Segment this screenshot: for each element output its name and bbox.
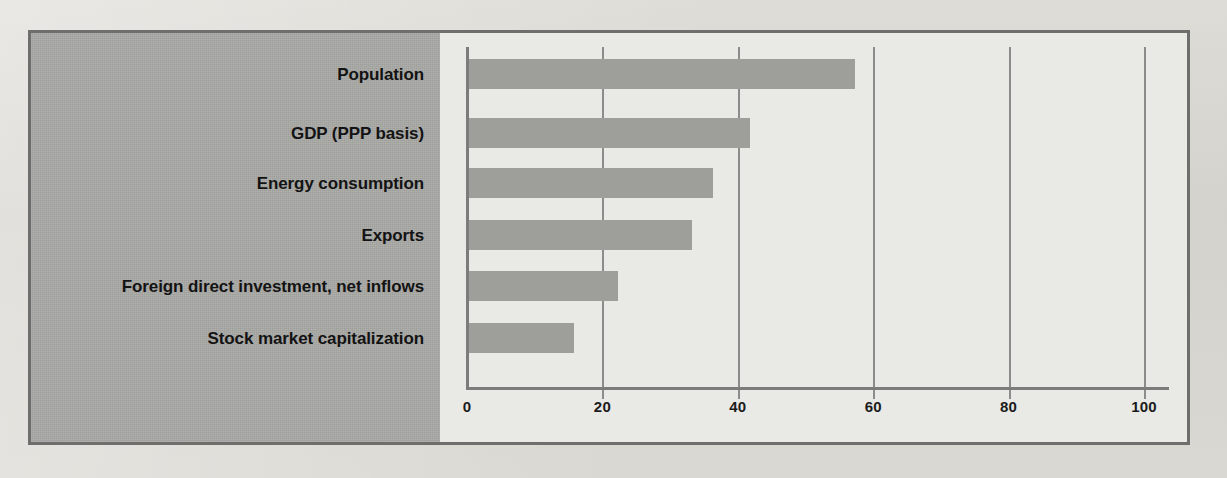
gridline-60 bbox=[873, 47, 875, 399]
x-tick-label-80: 80 bbox=[1000, 398, 1017, 415]
category-label-3: Exports bbox=[361, 226, 424, 246]
category-label-4: Foreign direct investment, net inflows bbox=[122, 277, 424, 297]
bar-0 bbox=[469, 59, 855, 89]
x-tick-label-0: 0 bbox=[463, 398, 472, 415]
x-tick-label-60: 60 bbox=[865, 398, 882, 415]
bar-2 bbox=[469, 168, 713, 198]
gridline-80 bbox=[1009, 47, 1011, 399]
bar-4 bbox=[469, 271, 618, 301]
plot-area: 020406080100 bbox=[440, 33, 1187, 442]
bar-5 bbox=[469, 323, 574, 353]
x-tick-label-100: 100 bbox=[1131, 398, 1157, 415]
bar-3 bbox=[469, 220, 692, 250]
category-label-0: Population bbox=[337, 65, 424, 85]
gridline-100 bbox=[1144, 47, 1146, 399]
bar-1 bbox=[469, 118, 750, 148]
x-tick-label-40: 40 bbox=[729, 398, 746, 415]
category-label-5: Stock market capitalization bbox=[208, 329, 424, 349]
category-label-1: GDP (PPP basis) bbox=[291, 124, 424, 144]
bar-chart-figure: PopulationGDP (PPP basis)Energy consumpt… bbox=[28, 30, 1190, 445]
gridline-40 bbox=[738, 47, 740, 399]
category-label-panel: PopulationGDP (PPP basis)Energy consumpt… bbox=[31, 33, 440, 442]
x-tick-label-20: 20 bbox=[594, 398, 611, 415]
x-axis-line bbox=[466, 387, 1169, 390]
category-label-2: Energy consumption bbox=[257, 174, 424, 194]
